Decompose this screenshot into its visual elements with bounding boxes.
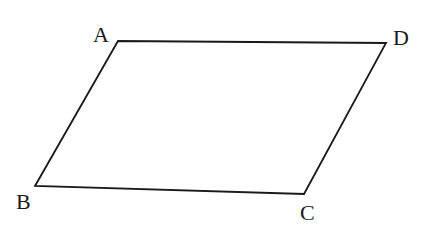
vertex-label-a: A [93, 22, 109, 47]
parallelogram-abcd [35, 41, 386, 194]
vertex-label-b: B [16, 189, 31, 214]
parallelogram-diagram: A B C D [0, 0, 434, 228]
vertex-label-c: C [300, 200, 315, 225]
vertex-label-d: D [393, 25, 409, 50]
